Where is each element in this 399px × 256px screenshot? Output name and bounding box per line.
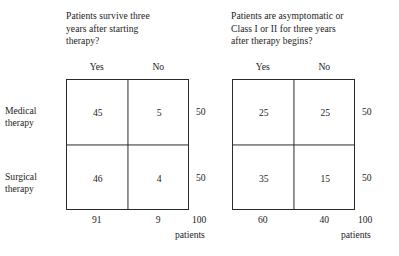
table-cell: 4 — [129, 146, 191, 212]
column-total: 91 — [66, 214, 128, 226]
column-total: 9 — [128, 214, 190, 226]
column-header-yes-left: Yes — [66, 61, 128, 73]
table-cell: 45 — [67, 80, 129, 146]
table-cell: 15 — [295, 146, 357, 212]
unit-label-right: patients — [341, 229, 371, 241]
contingency-table-panel-left: Patients survive three years after start… — [0, 0, 199, 256]
table-cell: 46 — [67, 146, 129, 212]
table-cell: 25 — [233, 80, 295, 146]
column-totals-left: 91 9 — [66, 214, 189, 226]
table-question-left: Patients survive three years after start… — [66, 10, 206, 48]
table-grid-left: 45 5 46 4 — [66, 79, 189, 210]
column-headers-left: Yes No — [66, 61, 189, 73]
table-cell: 35 — [233, 146, 295, 212]
column-headers-right: Yes No — [232, 61, 355, 73]
row-label-medical-therapy-left: Medical therapy — [5, 105, 63, 129]
table-cell: 5 — [129, 80, 191, 146]
column-header-yes-right: Yes — [232, 61, 294, 73]
column-header-no-left: No — [128, 61, 190, 73]
grand-total-right: 100 — [358, 214, 372, 226]
contingency-table-panel-right: Patients are asymptomatic or Class I or … — [199, 0, 399, 256]
column-total: 60 — [232, 214, 294, 226]
row-total: 50 — [362, 172, 372, 184]
contingency-tables-figure: Patients survive three years after start… — [0, 0, 399, 256]
table-cell: 25 — [295, 80, 357, 146]
table-question-right: Patients are asymptomatic or Class I or … — [231, 10, 399, 48]
column-total: 40 — [294, 214, 356, 226]
table-grid-right: 25 25 35 15 — [232, 79, 355, 210]
column-header-no-right: No — [294, 61, 356, 73]
row-total: 50 — [362, 106, 372, 118]
row-label-surgical-therapy-left: Surgical therapy — [5, 171, 63, 195]
column-totals-right: 60 40 — [232, 214, 355, 226]
